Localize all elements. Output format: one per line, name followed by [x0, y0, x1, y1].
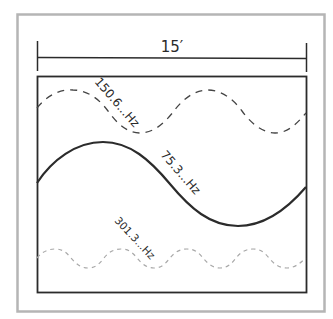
label-75hz: 75.3...Hz — [158, 148, 204, 198]
wave-301hz — [37, 249, 306, 268]
wave-150hz — [37, 90, 306, 133]
dimension-indicator: 15′ — [38, 38, 307, 72]
label-301hz: 301.3...Hz — [113, 214, 159, 262]
room-box — [38, 77, 307, 293]
label-150hz: 150.6...Hz — [92, 75, 143, 130]
dimension-label: 15′ — [161, 38, 184, 56]
dimension-line — [38, 58, 307, 59]
standing-wave-diagram: 15′ 150.6...Hz 75.3...Hz 301.3...Hz — [0, 0, 333, 319]
